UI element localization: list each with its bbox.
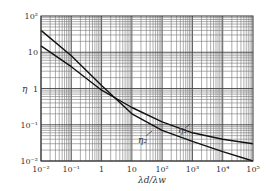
eta1-annotation: η₁	[178, 125, 187, 135]
y-tick-label: 10⁻²	[20, 157, 38, 166]
y-tick-label: 10²	[25, 12, 38, 21]
x-tick-label: 10⁻¹	[62, 165, 80, 174]
x-tick-label: 10⁻²	[32, 165, 50, 174]
x-tick-label: 1	[99, 165, 104, 174]
x-tick-label: 10	[127, 165, 137, 174]
x-tick-label: 10⁴	[216, 165, 229, 174]
x-tick-labels: 10⁻²10⁻¹11010²10³10⁴10⁵	[32, 165, 260, 174]
x-axis-label: λd/λw	[137, 175, 166, 185]
y-tick-label: 10	[28, 48, 38, 57]
x-tick-label: 10²	[155, 165, 168, 174]
x-tick-label: 10⁵	[246, 165, 259, 174]
x-tick-label: 10³	[186, 165, 199, 174]
eta2-annotation: η₂	[138, 135, 147, 145]
y-axis-label: η	[22, 84, 28, 94]
y-tick-label: 10⁻¹	[20, 121, 38, 130]
y-tick-label: 1	[33, 85, 38, 94]
log-log-chart: 10⁻²10⁻¹11010²10³10⁴10⁵ 10⁻²10⁻¹11010² η…	[0, 0, 267, 191]
eta2-leader	[146, 131, 152, 136]
